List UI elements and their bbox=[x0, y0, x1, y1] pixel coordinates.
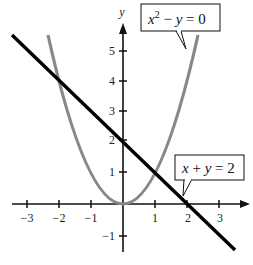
callout-parabola: x2 − y = 0 bbox=[141, 4, 220, 49]
y-axis-arrow-icon bbox=[119, 23, 127, 34]
equation-label-line: x + y = 2 bbox=[181, 160, 235, 176]
callout-line: x + y = 2 bbox=[175, 155, 244, 196]
x-tick-label: −3 bbox=[21, 211, 34, 225]
y-axis: y −1 1 2 3 4 5 bbox=[102, 5, 127, 252]
x-tick-label: 3 bbox=[217, 211, 223, 225]
x-tick-label: −1 bbox=[85, 211, 98, 225]
y-tick-label: 4 bbox=[109, 74, 115, 88]
x-tick-label: 1 bbox=[152, 211, 158, 225]
y-axis-label: y bbox=[118, 5, 125, 19]
y-tick-label: −1 bbox=[102, 229, 115, 243]
x-tick-label: 2 bbox=[185, 211, 191, 225]
y-tick-label: 1 bbox=[109, 165, 115, 179]
graph: −3 −2 −1 1 2 3 y −1 1 2 3 4 5 x2 − y = 0 bbox=[0, 0, 253, 265]
x-tick-label: −2 bbox=[53, 211, 66, 225]
x-axis-arrow-icon bbox=[240, 200, 250, 208]
y-tick-label: 3 bbox=[109, 104, 115, 118]
y-tick-label: 5 bbox=[109, 44, 115, 58]
